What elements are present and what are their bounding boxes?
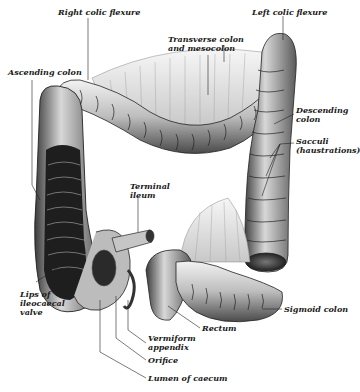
leader-orifice-2	[116, 338, 146, 360]
ileum-cut-end	[146, 230, 154, 242]
leader-lumen-2	[100, 352, 146, 378]
label-left-colic-flexure: Left colic flexure	[252, 8, 327, 17]
label-transverse-colon: Transverse colon and mesocolon	[168, 35, 244, 53]
label-vermiform-appendix: Vermiform appendix	[148, 334, 196, 352]
label-orifice: Orifice	[148, 356, 178, 365]
ascending-interior	[44, 145, 86, 300]
label-ascending-colon: Ascending colon	[8, 68, 82, 77]
ileocaecal-orifice	[92, 250, 116, 286]
label-descending-line2: colon	[296, 115, 348, 124]
leader-vermiform-2	[128, 330, 146, 343]
label-lumen-of-caecum: Lumen of caecum	[148, 374, 227, 383]
descending-cut-end	[246, 253, 286, 271]
label-rectum: Rectum	[202, 324, 237, 333]
sigmoid-mesocolon	[180, 198, 250, 262]
label-transverse-line2: and mesocolon	[168, 44, 244, 53]
label-right-colic-flexure: Right colic flexure	[58, 8, 140, 17]
label-vermiform-line2: appendix	[148, 343, 196, 352]
label-sacculi: Sacculi (haustrations)	[296, 137, 360, 155]
label-descending-colon: Descending colon	[296, 106, 348, 124]
label-terminal-ileum: Terminal ileum	[130, 182, 170, 200]
label-sacculi-line2: (haustrations)	[296, 146, 360, 155]
label-lips-of-ileocaecal-valve: Lips of ileocaecal valve	[20, 290, 65, 317]
label-terminal-line2: ileum	[130, 191, 170, 200]
label-lips-line3: valve	[20, 308, 65, 317]
label-sigmoid-colon: Sigmoid colon	[284, 305, 348, 314]
